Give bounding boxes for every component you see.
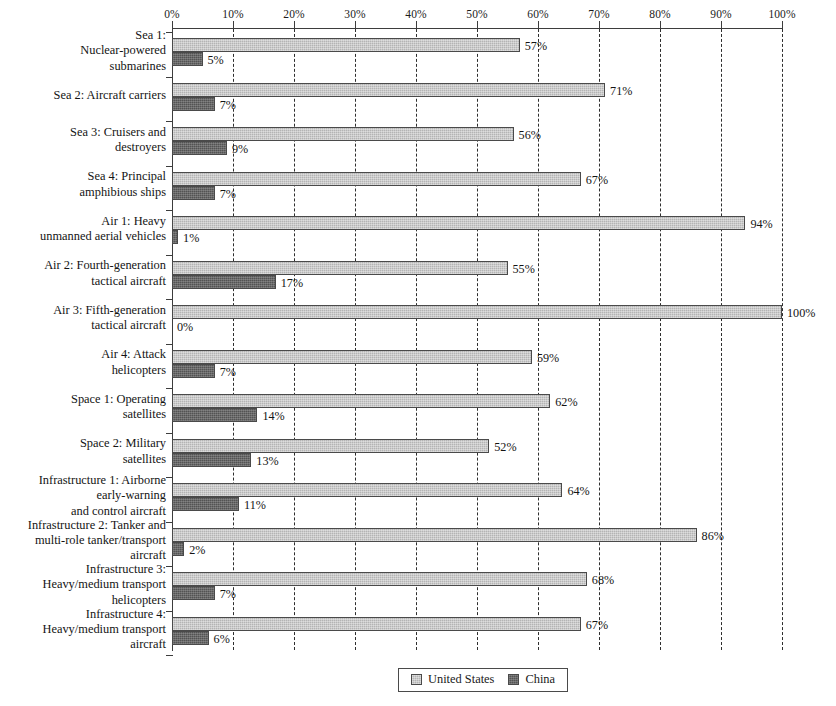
bar-united-states — [172, 261, 508, 275]
value-label: 7% — [220, 98, 236, 112]
bar-united-states — [172, 305, 782, 319]
x-tick-label: 40% — [405, 8, 426, 20]
category-label: Air 2: Fourth-generation tactical aircra… — [0, 258, 166, 288]
y-tick-mark — [166, 255, 173, 256]
bar-united-states — [172, 83, 605, 97]
value-label: 86% — [702, 529, 724, 543]
y-tick-mark — [166, 166, 173, 167]
bar-united-states — [172, 38, 520, 52]
category-label: Sea 4: Principal amphibious ships — [0, 169, 166, 199]
bar-united-states — [172, 127, 514, 141]
x-tick-mark — [538, 21, 539, 29]
category-label: Infrastructure 3: Heavy/medium transport… — [0, 562, 166, 608]
bar-china — [172, 364, 215, 378]
category-label: Space 2: Military satellites — [0, 436, 166, 466]
x-tick-label: 20% — [283, 8, 304, 20]
legend-label-united-states: United States — [428, 672, 494, 687]
bar-china — [172, 275, 276, 289]
category-label: Infrastructure 2: Tanker and multi-role … — [0, 518, 166, 564]
bar-china — [172, 408, 257, 422]
bar-united-states — [172, 350, 532, 364]
value-label: 94% — [750, 217, 772, 231]
value-label: 56% — [519, 128, 541, 142]
x-tick-mark — [172, 21, 173, 29]
category-label: Air 4: Attack helicopters — [0, 347, 166, 377]
category-label: Sea 1: Nuclear-powered submarines — [0, 28, 166, 74]
value-label: 67% — [586, 618, 608, 632]
y-tick-mark — [166, 566, 173, 567]
gridline — [660, 29, 661, 650]
value-label: 13% — [256, 454, 278, 468]
y-tick-mark — [166, 299, 173, 300]
x-tick-mark — [416, 21, 417, 29]
y-tick-mark — [166, 433, 173, 434]
x-tick-mark — [294, 21, 295, 29]
y-tick-mark — [166, 388, 173, 389]
bar-united-states — [172, 617, 581, 631]
bar-united-states — [172, 216, 745, 230]
bar-united-states — [172, 172, 581, 186]
bar-china — [172, 186, 215, 200]
x-tick-label: 70% — [588, 8, 609, 20]
value-label: 68% — [592, 573, 614, 587]
value-label: 67% — [586, 173, 608, 187]
value-label: 2% — [189, 543, 205, 557]
x-tick-mark — [233, 21, 234, 29]
x-tick-mark — [599, 21, 600, 29]
gridline — [599, 29, 600, 650]
bar-china — [172, 586, 215, 600]
bar-china — [172, 141, 227, 155]
value-label: 71% — [610, 84, 632, 98]
bar-china — [172, 453, 251, 467]
bar-china — [172, 52, 203, 66]
value-label: 62% — [555, 395, 577, 409]
bar-china — [172, 230, 178, 244]
y-tick-mark — [166, 210, 173, 211]
value-label: 0% — [177, 320, 193, 334]
value-label: 1% — [183, 231, 199, 245]
value-label: 7% — [220, 187, 236, 201]
bar-china — [172, 631, 209, 645]
bar-united-states — [172, 483, 562, 497]
category-label: Air 1: Heavy unmanned aerial vehicles — [0, 214, 166, 244]
legend-swatch-china — [508, 674, 519, 685]
y-tick-mark — [166, 121, 173, 122]
bar-chart: 0%10%20%30%40%50%60%70%80%90%100% Sea 1:… — [0, 0, 836, 706]
value-label: 7% — [220, 365, 236, 379]
value-label: 7% — [220, 587, 236, 601]
bar-united-states — [172, 394, 550, 408]
value-label: 100% — [787, 306, 815, 320]
category-label: Sea 3: Cruisers and destroyers — [0, 125, 166, 155]
x-tick-mark — [660, 21, 661, 29]
bar-united-states — [172, 439, 489, 453]
x-tick-label: 30% — [344, 8, 365, 20]
y-tick-mark — [166, 522, 173, 523]
legend-label-china: China — [525, 672, 555, 687]
category-label: Infrastructure 4: Heavy/medium transport… — [0, 607, 166, 653]
value-label: 55% — [513, 262, 535, 276]
gridline — [782, 29, 783, 650]
gridline — [294, 29, 295, 650]
value-label: 17% — [281, 276, 303, 290]
bar-china — [172, 97, 215, 111]
y-tick-mark — [166, 344, 173, 345]
gridline — [538, 29, 539, 650]
value-label: 59% — [537, 351, 559, 365]
value-label: 64% — [567, 484, 589, 498]
gridline — [233, 29, 234, 650]
x-tick-label: 10% — [222, 8, 243, 20]
x-tick-label: 80% — [649, 8, 670, 20]
value-label: 11% — [244, 498, 266, 512]
x-tick-label: 60% — [527, 8, 548, 20]
value-label: 57% — [525, 39, 547, 53]
x-tick-label: 100% — [768, 8, 795, 20]
value-label: 9% — [232, 142, 248, 156]
bar-china — [172, 542, 184, 556]
y-tick-mark — [166, 655, 173, 656]
legend-item-united-states: United States — [411, 672, 494, 687]
category-label: Space 1: Operating satellites — [0, 392, 166, 422]
bar-china — [172, 497, 239, 511]
category-label: Sea 2: Aircraft carriers — [0, 88, 166, 103]
value-label: 6% — [214, 632, 230, 646]
gridline — [355, 29, 356, 650]
